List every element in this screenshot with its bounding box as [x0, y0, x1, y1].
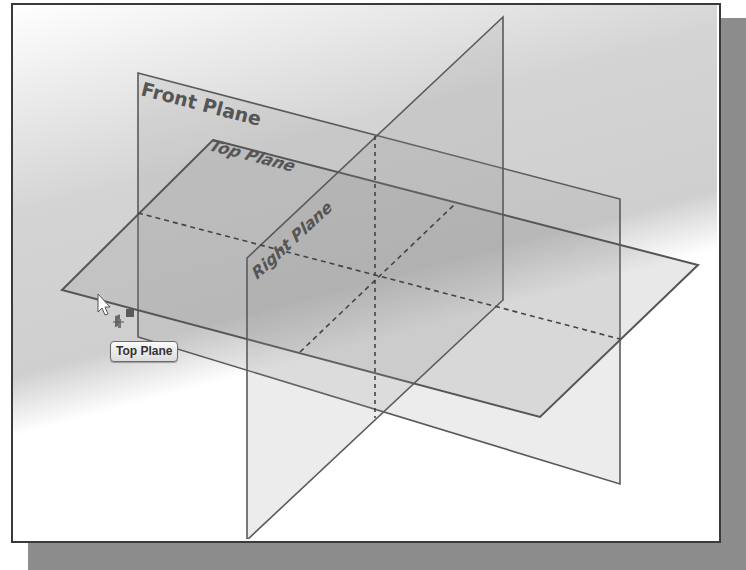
- plane-scene[interactable]: Front Plane Top Plane Right Plane: [0, 0, 746, 570]
- tooltip-top-plane: Top Plane: [110, 341, 178, 362]
